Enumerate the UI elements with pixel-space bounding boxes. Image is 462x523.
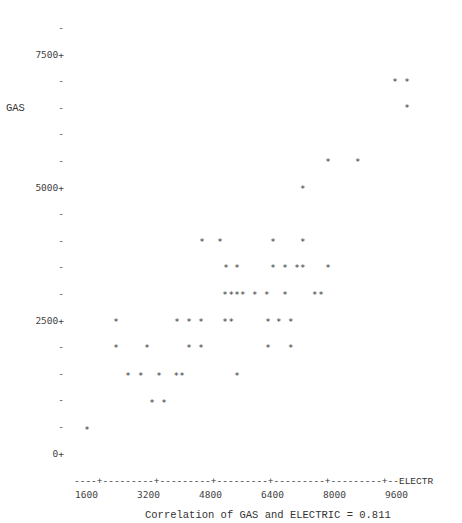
y-tick-mark: - xyxy=(58,263,64,273)
data-point-star: * xyxy=(200,237,205,246)
data-point-star: * xyxy=(114,343,119,352)
data-point-star: * xyxy=(235,372,240,381)
data-point-star: * xyxy=(289,343,294,352)
data-point-star: * xyxy=(266,317,271,326)
data-point-star: * xyxy=(229,291,234,300)
data-point-star: * xyxy=(199,343,204,352)
y-tick-label: 5000+ xyxy=(35,183,64,193)
data-point-star: * xyxy=(271,237,276,246)
y-tick-mark: - xyxy=(58,209,64,219)
data-point-star: * xyxy=(405,77,410,86)
data-point-star: * xyxy=(139,372,144,381)
y-tick-mark: - xyxy=(58,130,64,140)
x-tick-label: 3200 xyxy=(137,490,160,500)
ascii-scatter-plot: -7500+----5000+----2500+----0+ GAS *****… xyxy=(0,0,462,523)
y-tick-mark: - xyxy=(58,342,64,352)
data-point-star: * xyxy=(157,372,162,381)
y-tick-mark: - xyxy=(58,103,64,113)
data-point-star: * xyxy=(253,291,258,300)
data-point-star: * xyxy=(162,398,167,407)
data-point-star: * xyxy=(175,317,180,326)
data-point-star: * xyxy=(266,343,271,352)
data-point-star: * xyxy=(393,77,398,86)
data-point-star: * xyxy=(223,317,228,326)
y-tick-mark: - xyxy=(58,236,64,246)
y-tick-mark: - xyxy=(58,289,64,299)
data-point-star: * xyxy=(85,426,90,435)
y-tick-mark: - xyxy=(58,23,64,33)
data-point-star: * xyxy=(126,372,131,381)
data-point-star: * xyxy=(145,343,150,352)
data-point-star: * xyxy=(241,291,246,300)
data-point-star: * xyxy=(150,398,155,407)
data-point-star: * xyxy=(187,317,192,326)
data-point-star: * xyxy=(283,263,288,272)
y-tick-mark: - xyxy=(58,76,64,86)
y-tick-mark: - xyxy=(58,369,64,379)
data-point-star: * xyxy=(187,343,192,352)
y-tick-mark: - xyxy=(58,396,64,406)
data-point-star: * xyxy=(356,157,361,166)
x-tick-label: 8000 xyxy=(323,490,346,500)
data-point-star: * xyxy=(271,263,276,272)
y-tick-label: 2500+ xyxy=(35,316,64,326)
data-point-star: * xyxy=(326,157,331,166)
x-tick-label: 9600 xyxy=(385,490,408,500)
y-tick-label: 7500+ xyxy=(35,50,64,60)
x-axis-line: ----+---------+---------+---------+-----… xyxy=(74,476,433,487)
data-point-star: * xyxy=(289,317,294,326)
x-tick-label: 4800 xyxy=(199,490,222,500)
data-point-star: * xyxy=(218,237,223,246)
data-point-star: * xyxy=(295,263,300,272)
data-point-star: * xyxy=(174,372,179,381)
data-point-star: * xyxy=(313,291,318,300)
data-point-star: * xyxy=(277,317,282,326)
correlation-footnote: Correlation of GAS and ELECTRIC = 0.811 xyxy=(145,510,391,521)
data-point-star: * xyxy=(301,263,306,272)
data-point-star: * xyxy=(235,263,240,272)
y-tick-label: 0+ xyxy=(53,449,64,459)
data-point-star: * xyxy=(301,184,306,193)
data-point-star: * xyxy=(301,237,306,246)
data-point-star: * xyxy=(223,291,228,300)
data-point-star: * xyxy=(199,317,204,326)
data-point-star: * xyxy=(224,263,229,272)
x-tick-label: 6400 xyxy=(261,490,284,500)
data-point-star: * xyxy=(229,317,234,326)
x-tick-label: 1600 xyxy=(75,490,98,500)
y-tick-mark: - xyxy=(58,156,64,166)
data-point-star: * xyxy=(265,291,270,300)
data-point-star: * xyxy=(405,103,410,112)
data-point-star: * xyxy=(326,263,331,272)
data-point-star: * xyxy=(114,317,119,326)
data-point-star: * xyxy=(180,372,185,381)
data-point-star: * xyxy=(283,291,288,300)
y-axis-label: GAS xyxy=(6,103,25,114)
y-tick-mark: - xyxy=(58,422,64,432)
data-point-star: * xyxy=(319,291,324,300)
data-point-star: * xyxy=(235,291,240,300)
